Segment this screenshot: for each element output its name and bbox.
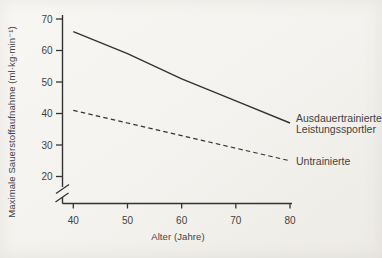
x-tick-label-50: 50: [122, 215, 134, 226]
y-tick-label-20: 20: [41, 171, 53, 182]
series-label-trained-line-2: Leistungssportler: [296, 123, 376, 135]
series-line-untrained: [73, 110, 290, 161]
y-tick-label-40: 40: [41, 108, 53, 119]
x-tick-label-80: 80: [284, 215, 296, 226]
series-label-trained-line-1: Ausdauertrainierte: [296, 112, 382, 124]
y-ticks: 706050403020: [41, 14, 62, 183]
x-tick-label-60: 60: [176, 215, 188, 226]
y-tick-label-30: 30: [41, 140, 53, 151]
y-tick-label-70: 70: [41, 14, 53, 25]
series-lines: [73, 32, 290, 161]
y-axis-label: Maximale Sauerstoffaufnahme (ml·kg·min⁻¹…: [6, 26, 17, 218]
y-tick-label-50: 50: [41, 77, 53, 88]
figure: 706050403020 4050607080 Maximale Sauerst…: [0, 0, 382, 258]
x-tick-label-40: 40: [68, 215, 80, 226]
chart-svg: 706050403020 4050607080 Maximale Sauerst…: [0, 0, 382, 258]
x-axis-label: Alter (Jahre): [151, 231, 205, 242]
x-ticks: 4050607080: [68, 204, 296, 227]
y-tick-label-60: 60: [41, 45, 53, 56]
series-label-untrained: Untrainierte: [296, 155, 350, 167]
series-line-trained: [73, 32, 290, 123]
x-tick-label-70: 70: [230, 215, 242, 226]
